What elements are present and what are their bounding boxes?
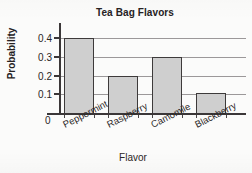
chart-title: Tea Bag Flavors — [60, 7, 210, 18]
y-axis-line — [59, 23, 61, 113]
y-axis-tick-label: 0.1 — [38, 89, 52, 100]
y-axis-tick-label: 0.3 — [38, 52, 52, 63]
bar — [64, 38, 94, 114]
origin-tick-label: 0 — [45, 115, 51, 126]
x-axis-title: Flavor — [78, 152, 188, 163]
y-axis-title: Probability — [6, 16, 17, 92]
chart-screenshot: Tea Bag Flavors Probability Flavor 0.10.… — [0, 0, 252, 173]
y-axis-tick-label: 0.2 — [38, 70, 52, 81]
y-axis-tick-label: 0.4 — [38, 33, 52, 44]
plot-area: 0.10.20.30.4 0 — [59, 31, 246, 113]
